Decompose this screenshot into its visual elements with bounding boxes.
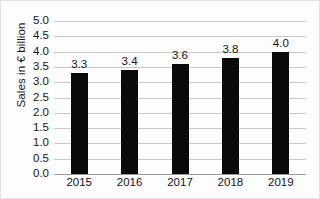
gridline: 4.5: [54, 36, 306, 37]
bar: [71, 73, 88, 174]
bar-value-label: 3.6: [172, 50, 188, 62]
y-axis-tick-label: 3.0: [33, 76, 49, 88]
y-axis-tick-label: 0.0: [33, 168, 49, 180]
y-axis-tick-label: 2.5: [33, 92, 49, 104]
y-axis-tick-label: 0.5: [33, 153, 49, 165]
y-axis-tick-label: 4.0: [33, 46, 49, 58]
bar-value-label: 4.0: [273, 38, 289, 50]
y-axis-tick-label: 5.0: [33, 15, 49, 27]
bar: [272, 52, 289, 174]
y-axis-tick-label: 1.0: [33, 137, 49, 149]
bar-chart-figure: Sales in € billion 5.04.54.03.53.02.52.0…: [0, 0, 320, 199]
bar: [222, 58, 239, 174]
bar-value-label: 3.4: [122, 56, 138, 68]
y-axis-tick-label: 1.5: [33, 122, 49, 134]
gridline: 5.0: [54, 21, 306, 22]
y-axis-tick-label: 3.5: [33, 61, 49, 73]
x-axis-tick-label: 2016: [117, 177, 143, 189]
x-axis-line: 0.0: [54, 174, 306, 175]
bar-value-label: 3.8: [222, 44, 238, 56]
x-axis-tick-label: 2015: [66, 177, 92, 189]
y-axis-tick-label: 2.0: [33, 107, 49, 119]
plot-area: 5.04.54.03.53.02.52.01.51.00.50.03.33.43…: [54, 21, 306, 174]
y-axis-tick-label: 4.5: [33, 30, 49, 42]
x-axis-tick-label: 2019: [268, 177, 294, 189]
bar: [172, 64, 189, 174]
x-axis-tick-label: 2018: [218, 177, 244, 189]
bar-value-label: 3.3: [71, 59, 87, 71]
bar: [121, 70, 138, 174]
y-axis-title: Sales in € billion: [15, 0, 27, 133]
x-axis-tick-label: 2017: [167, 177, 193, 189]
